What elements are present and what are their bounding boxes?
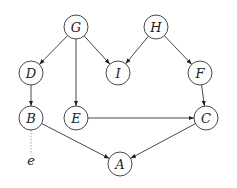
node-label: F xyxy=(194,66,205,81)
node-label: C xyxy=(201,111,211,126)
node-label: G xyxy=(71,20,81,35)
edges xyxy=(31,36,204,159)
edge-F-C xyxy=(202,85,205,106)
node-A: A xyxy=(108,152,132,176)
node-label: H xyxy=(149,20,162,35)
node-D: D xyxy=(19,61,43,85)
edge-G-I xyxy=(84,36,110,64)
auxiliary-variable: e xyxy=(27,130,35,168)
aux-label: e xyxy=(27,153,35,168)
node-B: B xyxy=(19,106,43,130)
node-E: E xyxy=(64,106,88,130)
edge-H-F xyxy=(164,36,191,65)
directed-graph: e GHDIFBECA xyxy=(0,0,237,188)
node-label: I xyxy=(114,66,121,81)
node-G: G xyxy=(64,15,88,39)
node-label: A xyxy=(114,157,124,172)
node-F: F xyxy=(188,61,212,85)
node-I: I xyxy=(106,61,130,85)
node-label: E xyxy=(70,111,81,126)
node-C: C xyxy=(194,106,218,130)
edge-C-A xyxy=(131,124,196,159)
edge-G-D xyxy=(39,36,67,65)
node-label: D xyxy=(25,66,37,81)
node-H: H xyxy=(144,15,168,39)
node-label: B xyxy=(25,111,36,126)
edge-H-I xyxy=(126,36,149,63)
nodes: GHDIFBECA xyxy=(19,15,218,176)
